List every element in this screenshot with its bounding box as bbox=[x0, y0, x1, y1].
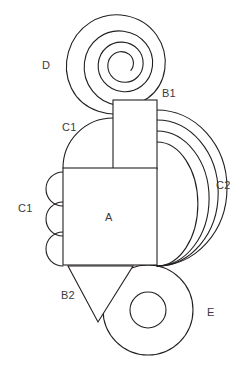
b1-rect-path bbox=[113, 100, 157, 169]
label-c2: C2 bbox=[216, 180, 230, 191]
label-a: A bbox=[105, 212, 113, 223]
d-spiral-path bbox=[66, 15, 165, 114]
shape-d-spiral bbox=[66, 15, 165, 114]
technical-diagram bbox=[0, 0, 244, 379]
c1-left-arc-1 bbox=[46, 172, 63, 206]
label-b1: B1 bbox=[162, 88, 176, 99]
label-c1-top: C1 bbox=[62, 122, 76, 133]
label-d: D bbox=[42, 60, 50, 71]
diagram-canvas: D B1 C1 C1 C2 A B2 E bbox=[0, 0, 244, 379]
c2-arc-3 bbox=[157, 131, 209, 266]
shape-c1-left-arcs bbox=[46, 172, 63, 266]
label-b2: B2 bbox=[61, 290, 75, 301]
c2-arc-4 bbox=[157, 142, 198, 266]
c1-left-arc-2 bbox=[46, 202, 63, 236]
label-e: E bbox=[207, 307, 215, 318]
label-c1-left: C1 bbox=[18, 203, 32, 214]
c1-left-arc-3 bbox=[46, 232, 63, 266]
shape-b1-rectangle bbox=[113, 100, 157, 169]
